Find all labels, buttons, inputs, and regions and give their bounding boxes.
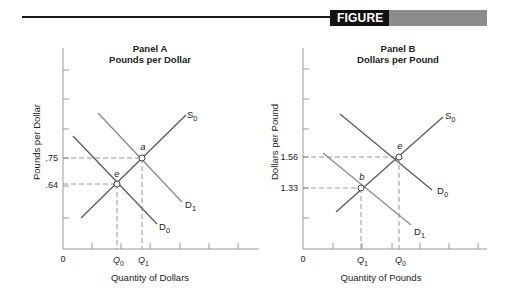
panel-b-x-label: Quantity of Pounds [341,272,422,283]
panel-a-point-e [114,181,120,187]
panel-a: Panel A Pounds per Dollar [31,43,259,283]
panel-a-origin: 0 [60,254,65,264]
panel-b-title: Panel B [381,43,416,54]
panel-b-point-b-label: b [359,171,364,182]
panel-a-subtitle: Pounds per Dollar [109,54,191,65]
panel-b-y-label: Dollars per Pound [269,104,280,180]
panel-a-xtick-q0: Q0 [113,255,124,267]
panel-b-point-e [396,154,402,160]
panel-a-demand1-label: D1 [185,199,196,213]
panel-b-demand1-curve [323,153,411,225]
panel-b-demand1-label: D1 [414,226,425,240]
panel-b-xtick-q0: Q0 [395,255,406,267]
panel-a-point-e-label: e [114,168,119,179]
panel-b-xtick-q1: Q1 [357,255,368,267]
panel-b-supply-curve [336,117,443,212]
panel-b-ytick-low: 1.33 [280,183,298,193]
panel-b-point-b [358,185,364,191]
panel-a-y-ticks [63,70,69,218]
panel-a-xtick-q1: Q1 [138,255,149,267]
panel-a-supply-curve [81,115,186,218]
panel-a-demand0-label: D0 [159,221,170,235]
panel-b-supply-label: S0 [445,110,456,124]
panel-b-point-e-label: e [397,140,402,151]
panel-a-ytick-high: .75 [45,153,58,163]
figure-canvas: Panel A Pounds per Dollar [0,0,512,303]
panel-b-demand0-label: D0 [437,185,448,199]
panel-b-y-ticks [303,69,309,218]
panel-b-subtitle: Dollars per Pound [357,54,439,65]
panel-a-point-a [139,155,145,161]
panel-a-point-a-label: a [140,141,145,152]
panel-a-title: Panel A [133,43,168,54]
panel-b-ytick-high: 1.56 [280,152,298,162]
panel-a-y-label: Pounds per Dollar [31,104,42,180]
panel-b: Panel B Dollars per Pound [269,43,487,283]
panel-a-ytick-low: .64 [45,180,58,190]
panel-a-x-ticks [92,243,238,249]
panel-a-x-label: Quantity of Dollars [111,272,189,283]
panel-a-guides [63,158,142,249]
panel-b-origin: 0 [300,254,305,264]
panel-b-x-ticks [333,243,478,249]
panel-a-supply-label: S0 [187,109,198,123]
